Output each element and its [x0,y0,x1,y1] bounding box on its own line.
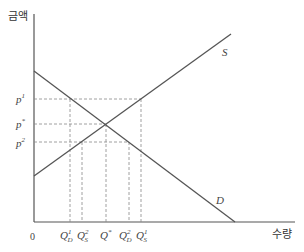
supply-demand-diagram: 금액 수량 0 S D p1 p* p2 Q1D Q2S Q* Q2D Q1S [0,0,304,252]
quantity-label-qs2: Q2S [77,228,89,244]
x-axis-label: 수량 [272,228,292,241]
supply-label: S [222,46,228,58]
demand-label: D [215,194,224,206]
supply-curve [34,34,231,176]
demand-curve [34,71,235,222]
price-label-p1: p1 [15,92,25,105]
quantity-label-qs1: Q1S [136,228,147,244]
guide-lines [34,99,141,222]
quantity-label-qd2: Q2D [119,228,132,244]
price-label-p2: p2 [15,136,26,149]
price-label-pstar: p* [15,117,26,130]
y-axis-label: 금액 [8,10,28,23]
origin-label: 0 [30,231,35,242]
quantity-label-qd1: Q1D [60,228,73,244]
quantity-label-qstar: Q* [100,228,112,241]
